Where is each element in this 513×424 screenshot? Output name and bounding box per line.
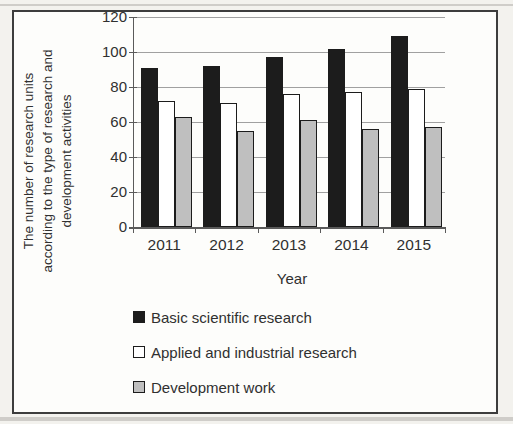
y-tick-label-120: 120 (87, 8, 127, 26)
x-tick-1 (195, 228, 196, 233)
bar-development-2011 (175, 117, 192, 227)
legend-item-3: Development work (133, 376, 433, 398)
y-tick-label-100: 100 (87, 43, 127, 61)
x-axis-line (129, 227, 446, 229)
legend-marker-3 (133, 381, 145, 393)
y-tick-label-60: 60 (87, 113, 127, 131)
legend-label-2: Applied and industrial research (151, 344, 357, 361)
scan-artifact-top (0, 4, 513, 6)
x-tick-0 (133, 228, 134, 233)
x-tick-label-2011: 2011 (138, 236, 190, 256)
chart-frame: The number of research units according t… (12, 10, 498, 414)
x-tick-3 (320, 228, 321, 233)
x-tick-2 (258, 228, 259, 233)
legend-marker-2 (133, 346, 145, 358)
bar-applied-2014 (345, 92, 362, 227)
x-tick-4 (383, 228, 384, 233)
bar-development-2012 (237, 131, 254, 227)
legend-label-1: Basic scientific research (151, 309, 312, 326)
bar-applied-2015 (408, 89, 425, 227)
bar-basic-2014 (328, 49, 345, 228)
x-tick-5 (445, 228, 446, 233)
x-tick-label-2013: 2013 (263, 236, 315, 256)
y-tick-label-80: 80 (87, 78, 127, 96)
bar-development-2013 (300, 120, 317, 227)
bar-applied-2013 (283, 94, 300, 227)
y-axis-line (133, 17, 134, 231)
y-tick-label-0: 0 (87, 218, 127, 236)
y-tick-label-40: 40 (87, 148, 127, 166)
bar-development-2014 (362, 129, 379, 227)
bar-basic-2011 (141, 68, 158, 227)
legend-item-2: Applied and industrial research (133, 341, 433, 363)
legend: Basic scientific researchApplied and ind… (133, 306, 433, 406)
x-tick-label-2012: 2012 (201, 236, 253, 256)
x-tick-label-2014: 2014 (325, 236, 377, 256)
bar-applied-2012 (220, 103, 237, 227)
x-tick-label-2015: 2015 (388, 236, 440, 256)
scan-artifact-bottom (0, 417, 513, 421)
bar-basic-2015 (391, 36, 408, 227)
x-axis-title: Year (262, 270, 322, 290)
bar-development-2015 (425, 127, 442, 227)
legend-marker-1 (133, 311, 145, 323)
legend-item-1: Basic scientific research (133, 306, 433, 328)
bar-basic-2012 (203, 66, 220, 227)
bar-basic-2013 (266, 57, 283, 227)
scanned-figure: The number of research units according t… (0, 0, 513, 424)
bar-applied-2011 (158, 101, 175, 227)
legend-label-3: Development work (151, 379, 275, 396)
y-tick-label-20: 20 (87, 183, 127, 201)
gridline-120 (133, 17, 445, 18)
